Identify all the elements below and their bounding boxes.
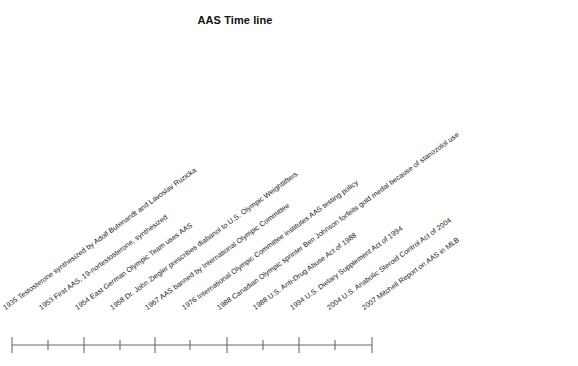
event-label-1988-6: 1988 Canadian Olympic sprinter Ben Johns…	[216, 131, 460, 311]
event-label-group: 1935 Testosterone synthesized by Adolf B…	[0, 0, 578, 366]
timeline-figure: AAS Time line 1935 Testosterone synthesi…	[0, 0, 578, 366]
